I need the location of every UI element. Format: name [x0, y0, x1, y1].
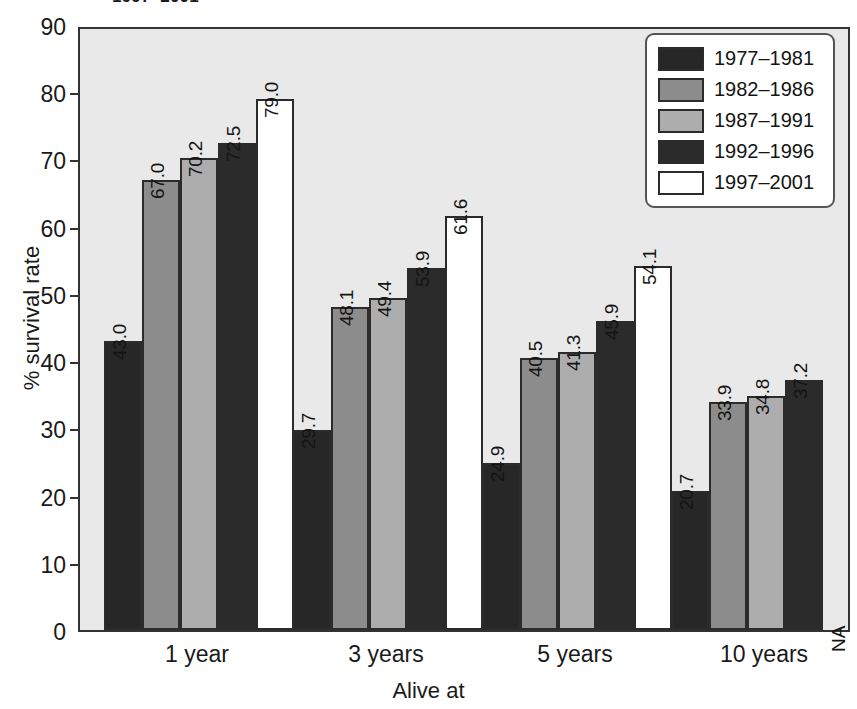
legend-item: 1997–2001 [658, 167, 823, 198]
x-category-label: 10 years [674, 641, 854, 668]
bar-value-label: 20.7 [676, 474, 698, 510]
y-tick-label: 10 [8, 551, 66, 578]
bar-value-label: 43.0 [109, 324, 131, 360]
bar-value-label: 53.9 [412, 250, 434, 286]
x-category-label: 1 year [107, 641, 287, 668]
legend-label: 1992–1996 [714, 140, 814, 163]
x-category-label: 3 years [296, 641, 476, 668]
legend-label: 1982–1986 [714, 78, 814, 101]
bar-value-label: 24.9 [487, 445, 509, 481]
bar-value-label: 34.8 [752, 379, 774, 415]
bar-value-label: 37.2 [790, 363, 812, 399]
bar [256, 99, 294, 630]
bar-value-label: 79.0 [261, 82, 283, 118]
x-axis-title: Alive at [0, 678, 857, 704]
bar [671, 491, 709, 630]
bar [180, 158, 218, 630]
bar-value-label: 67.0 [147, 162, 169, 198]
bar [369, 298, 407, 630]
legend-item: 1992–1996 [658, 136, 823, 167]
bar-value-label: 45.9 [601, 304, 623, 340]
bar [558, 352, 596, 630]
bar [293, 430, 331, 630]
bar [747, 396, 785, 630]
legend-swatch [658, 78, 704, 102]
legend-item: 1977–1981 [658, 43, 823, 74]
bar [520, 358, 558, 630]
bar-value-label: 33.9 [714, 385, 736, 421]
bar-value-label: 49.4 [374, 281, 396, 317]
legend-label: 1997–2001 [714, 171, 814, 194]
legend-item: 1987–1991 [658, 105, 823, 136]
bar-value-label: 54.1 [639, 249, 661, 285]
bar [445, 216, 483, 630]
legend: 1977–19811982–19861987–19911992–19961997… [645, 33, 835, 208]
legend-swatch [658, 47, 704, 71]
y-tick-label: 70 [8, 148, 66, 175]
x-category-label: 5 years [485, 641, 665, 668]
y-axis-title: % survival rate [19, 178, 45, 458]
bar [634, 266, 672, 630]
bar [218, 143, 256, 630]
bar [104, 341, 142, 630]
bar [331, 307, 369, 630]
bar [142, 180, 180, 630]
bar-value-label: 48.1 [336, 289, 358, 325]
bar [482, 463, 520, 630]
bar-value-label: 61.6 [450, 199, 472, 235]
bar [407, 268, 445, 630]
bar-value-label: 70.2 [185, 141, 207, 177]
chart-figure: 1997–2001 0102030405060708090 % survival… [0, 0, 857, 709]
bar [596, 321, 634, 630]
bar-value-label: 41.3 [563, 335, 585, 371]
y-tick-label: 20 [8, 484, 66, 511]
legend-label: 1977–1981 [714, 47, 814, 70]
legend-label: 1987–1991 [714, 109, 814, 132]
legend-swatch [658, 171, 704, 195]
bar-value-label: 29.7 [298, 413, 320, 449]
legend-item: 1982–1986 [658, 74, 823, 105]
bar-value-label: 40.5 [525, 341, 547, 377]
bar-value-label: 72.5 [223, 125, 245, 161]
legend-swatch [658, 109, 704, 133]
y-tick-label: 80 [8, 81, 66, 108]
legend-swatch [658, 140, 704, 164]
bar [785, 380, 823, 630]
bar [709, 402, 747, 630]
y-tick-label: 0 [8, 619, 66, 646]
y-tick-label: 90 [8, 14, 66, 41]
